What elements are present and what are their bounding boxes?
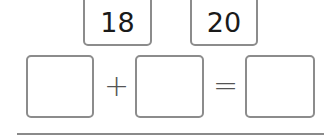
number-card-20[interactable]: 20 xyxy=(190,0,258,46)
number-card-18[interactable]: 18 xyxy=(83,0,152,46)
answer-slot-addend-1[interactable] xyxy=(26,55,94,118)
number-card-value: 20 xyxy=(207,7,241,38)
equals-sign: = xyxy=(213,71,238,101)
answer-slot-sum[interactable] xyxy=(245,55,315,118)
plus-sign: + xyxy=(104,71,129,101)
answer-slot-addend-2[interactable] xyxy=(135,55,204,118)
number-card-value: 18 xyxy=(100,7,134,38)
divider-line xyxy=(17,133,324,135)
